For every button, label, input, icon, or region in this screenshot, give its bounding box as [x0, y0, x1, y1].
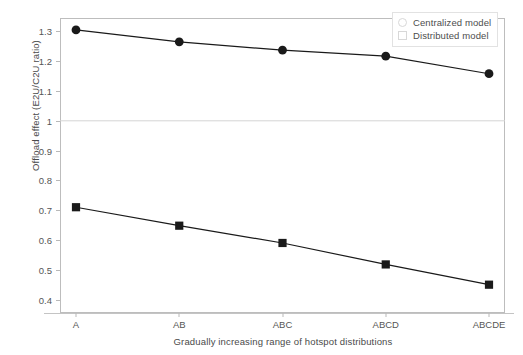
- x-tick-mark: [385, 313, 386, 317]
- y-tick-label: 0.5: [24, 264, 52, 275]
- legend-item-centralized[interactable]: Centralized model: [398, 16, 491, 29]
- x-tick-mark: [282, 313, 283, 317]
- x-tick-label: ABCD: [373, 319, 399, 330]
- x-tick-mark: [76, 313, 77, 317]
- legend-label-distributed: Distributed model: [413, 30, 489, 41]
- y-tick-label: 1.3: [24, 26, 52, 37]
- plot-canvas: [60, 18, 505, 313]
- chart-container: Offload effect (E2U/C2U ratio) 0.40.50.6…: [0, 0, 523, 355]
- data-point-circle[interactable]: [175, 37, 184, 46]
- x-tick-label: ABC: [273, 319, 293, 330]
- x-tick-label: AB: [173, 319, 186, 330]
- data-point-square[interactable]: [175, 222, 183, 230]
- x-tick-label: ABCDE: [473, 319, 506, 330]
- x-tick-mark: [179, 313, 180, 317]
- y-tick-label: 0.4: [24, 294, 52, 305]
- data-point-circle[interactable]: [485, 69, 494, 78]
- y-tick-label: 1.1: [24, 86, 52, 97]
- y-tick-label: 0.9: [24, 145, 52, 156]
- x-tick-label: A: [73, 319, 79, 330]
- legend-item-distributed[interactable]: Distributed model: [398, 29, 491, 42]
- y-tick-label: 0.6: [24, 234, 52, 245]
- x-axis-baseline: [44, 313, 514, 314]
- chart-legend: Centralized model Distributed model: [392, 12, 498, 47]
- legend-label-centralized: Centralized model: [413, 17, 491, 28]
- data-point-circle[interactable]: [381, 52, 390, 61]
- y-tick-label: 1.2: [24, 56, 52, 67]
- legend-square-marker-icon: [398, 31, 407, 40]
- data-point-circle[interactable]: [72, 26, 81, 35]
- data-point-circle[interactable]: [278, 46, 287, 55]
- y-tick-label: 0.8: [24, 175, 52, 186]
- data-point-square[interactable]: [278, 239, 286, 247]
- data-point-square[interactable]: [72, 203, 80, 211]
- x-axis-title: Gradually increasing range of hotspot di…: [60, 336, 506, 347]
- y-tick-label: 0.7: [24, 205, 52, 216]
- data-point-square[interactable]: [485, 281, 493, 289]
- x-tick-mark: [489, 313, 490, 317]
- y-tick-label: 1: [24, 115, 52, 126]
- data-point-square[interactable]: [382, 260, 390, 268]
- legend-circle-marker-icon: [398, 18, 407, 27]
